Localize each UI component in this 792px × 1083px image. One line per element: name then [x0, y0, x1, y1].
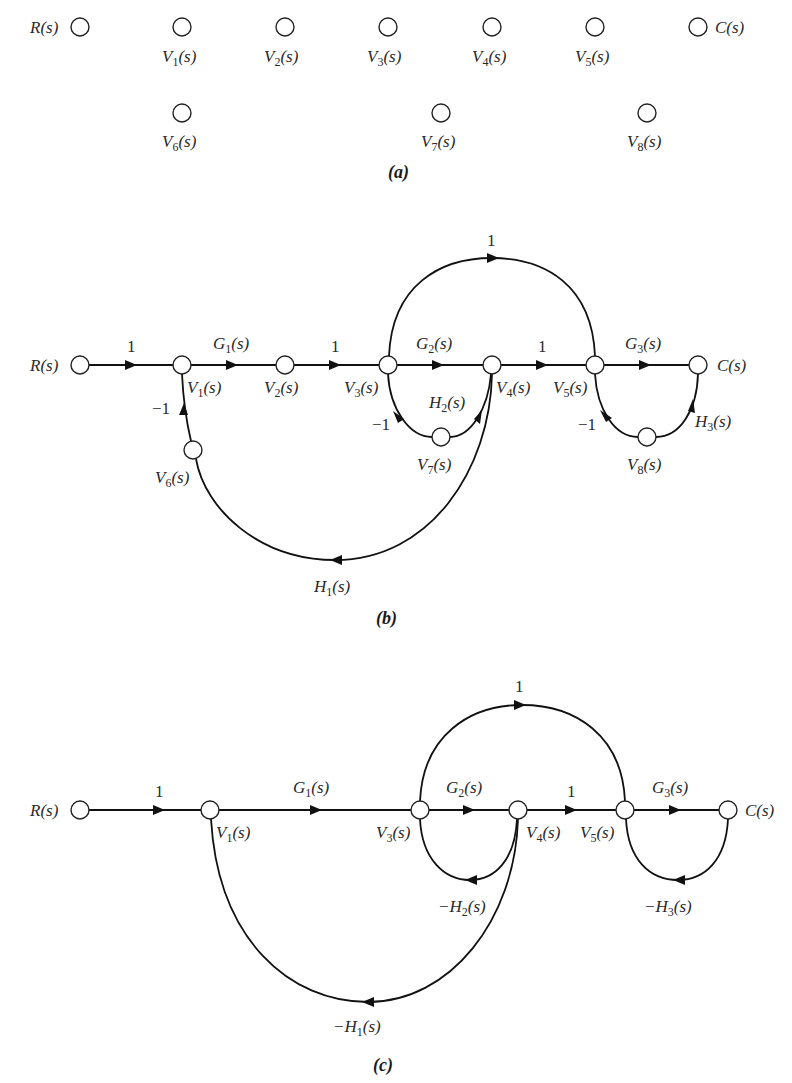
node-label-R: R(s) [29, 801, 59, 820]
arrow-icon [465, 875, 477, 885]
gain-V4-V1: −H1(s) [333, 1017, 381, 1039]
arrow-icon [329, 360, 341, 370]
node-V5 [616, 801, 634, 819]
node-label-V1: V1(s) [216, 823, 251, 845]
node-label-V1: V1(s) [187, 378, 222, 400]
panel-c: 1 G1(s) G2(s) 1 G3(s) 1 −H2(s) −H3(s) −H… [29, 677, 775, 1076]
gain-R-V1: 1 [127, 337, 136, 356]
node-V5 [586, 356, 604, 374]
arrow-icon [362, 997, 374, 1007]
node-V3 [379, 18, 397, 36]
arrow-icon [153, 805, 165, 815]
node-R [71, 18, 89, 36]
gain-V7-V3: −1 [372, 415, 390, 434]
node-label-R: R(s) [29, 18, 59, 37]
node-label-V8: V8(s) [627, 455, 662, 477]
gain-V4-V5: 1 [567, 782, 576, 801]
node-label-V4: V4(s) [496, 378, 531, 400]
node-label-V7: V7(s) [417, 455, 452, 477]
arrow-icon [330, 555, 342, 565]
node-label-V5: V5(s) [575, 47, 610, 69]
node-label-V8: V8(s) [627, 132, 662, 154]
panel-b: 1 G1(s) 1 G2(s) 1 G3(s) 1 H2(s) −1 H3(s) [29, 231, 747, 629]
gain-C-V8: H3(s) [694, 412, 732, 434]
gain-V1-V2: G1(s) [213, 334, 250, 356]
gain-C-V5: −H3(s) [644, 897, 692, 919]
node-label-V6: V6(s) [162, 132, 197, 154]
gain-V4-V7: H2(s) [428, 393, 466, 415]
arrow-icon [432, 360, 444, 370]
node-C [689, 356, 707, 374]
node-C [719, 801, 737, 819]
node-V4 [483, 18, 501, 36]
node-label-V7: V7(s) [421, 132, 456, 154]
arrow-icon [310, 805, 322, 815]
node-V7 [432, 104, 450, 122]
edge-V7-V3 [388, 374, 432, 437]
node-label-C: C(s) [745, 801, 775, 820]
node-V1 [173, 356, 191, 374]
node-C [689, 18, 707, 36]
caption-a: (a) [388, 162, 409, 183]
node-label-V4: V4(s) [472, 47, 507, 69]
node-R [71, 356, 89, 374]
node-V3 [411, 801, 429, 819]
node-label-V3: V3(s) [367, 47, 402, 69]
signal-flow-figure: R(s) V1(s) V2(s) V3(s) V4(s) V5(s) C(s) … [0, 0, 792, 1083]
node-label-V2: V2(s) [264, 378, 299, 400]
node-label-C: C(s) [717, 356, 747, 375]
caption-b: (b) [376, 608, 397, 629]
node-label-V6: V6(s) [155, 468, 190, 490]
panel-a: R(s) V1(s) V2(s) V3(s) V4(s) V5(s) C(s) … [29, 18, 745, 183]
node-V4 [483, 356, 501, 374]
node-label-R: R(s) [29, 356, 59, 375]
node-V2 [276, 356, 294, 374]
arrow-icon [669, 805, 681, 815]
node-V6 [184, 441, 202, 459]
arrow-icon [639, 360, 651, 370]
gain-V5-C: G3(s) [625, 334, 662, 356]
gain-V3-V4: G2(s) [446, 778, 483, 800]
arrow-icon [673, 875, 685, 885]
gain-V3-V5: 1 [487, 231, 496, 250]
node-label-V5: V5(s) [553, 378, 588, 400]
gain-V3-V4: G2(s) [416, 334, 453, 356]
gain-R-V1: 1 [155, 782, 164, 801]
node-label-V5: V5(s) [580, 823, 615, 845]
node-V7 [432, 428, 450, 446]
node-V4 [509, 801, 527, 819]
gain-V4-V6: H1(s) [313, 577, 351, 599]
node-label-V2: V2(s) [264, 47, 299, 69]
node-V6 [173, 104, 191, 122]
arrow-icon [179, 403, 188, 415]
node-V2 [276, 18, 294, 36]
gain-V3-V5: 1 [515, 677, 524, 696]
gain-V4-V5: 1 [538, 337, 547, 356]
node-R [71, 801, 89, 819]
edge-V8-V5 [595, 374, 638, 437]
node-label-V1: V1(s) [162, 47, 197, 69]
arrow-icon [125, 360, 137, 370]
gain-V6-V1: −1 [152, 399, 170, 418]
arrow-icon [514, 700, 526, 710]
arrow-icon [565, 805, 577, 815]
arrow-icon [536, 360, 548, 370]
gain-V8-V5: −1 [578, 415, 596, 434]
node-V8 [638, 428, 656, 446]
node-V1 [201, 801, 219, 819]
arrow-icon [226, 360, 238, 370]
node-V3 [379, 356, 397, 374]
gain-V4-V3: −H2(s) [438, 897, 486, 919]
edge-C-V5 [626, 819, 728, 880]
node-label-V3: V3(s) [344, 378, 379, 400]
caption-c: (c) [373, 1055, 393, 1076]
node-V1 [173, 18, 191, 36]
edge-V4-V3 [420, 819, 517, 880]
node-V5 [586, 18, 604, 36]
node-V8 [638, 104, 656, 122]
arrow-icon [487, 253, 499, 263]
arrow-icon [463, 805, 475, 815]
gain-V2-V3: 1 [331, 337, 340, 356]
node-label-V3: V3(s) [376, 823, 411, 845]
gain-V1-V3: G1(s) [293, 778, 330, 800]
